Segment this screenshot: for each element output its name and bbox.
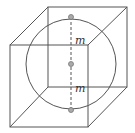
- upper-radius-label: m: [75, 34, 85, 47]
- bottom-point: [69, 108, 74, 113]
- cube-sphere-diagram: m m: [0, 0, 135, 133]
- top-point: [69, 15, 74, 20]
- center-point: [69, 62, 74, 67]
- lower-radius-label: m: [75, 82, 85, 95]
